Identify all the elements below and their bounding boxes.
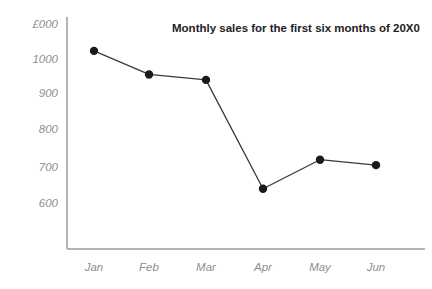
data-point-jan	[90, 47, 98, 55]
data-point-markers	[90, 47, 380, 193]
series-line-monthly-sales	[94, 51, 376, 189]
x-tick-label-apr: Apr	[253, 261, 273, 273]
y-tick-label-800: 800	[39, 123, 59, 135]
x-tick-label-may: May	[309, 261, 332, 273]
y-tick-label-600: 600	[39, 197, 59, 209]
data-point-feb	[145, 70, 153, 78]
y-tick-label-700: 700	[39, 161, 59, 173]
chart-canvas: £000 1000 900 800 700 600 Monthly sales …	[0, 0, 432, 289]
line-chart: £000 1000 900 800 700 600 Monthly sales …	[0, 0, 432, 289]
y-tick-label-1000: 1000	[32, 53, 58, 65]
x-tick-label-mar: Mar	[196, 261, 217, 273]
data-point-jun	[372, 161, 380, 169]
chart-title: Monthly sales for the first six months o…	[172, 22, 420, 34]
x-tick-label-jun: Jun	[366, 261, 386, 273]
data-point-may	[316, 156, 324, 164]
x-tick-label-jan: Jan	[84, 261, 104, 273]
y-tick-label-900: 900	[39, 87, 59, 99]
y-axis-unit-label: £000	[31, 18, 58, 30]
data-point-apr	[259, 185, 267, 193]
x-tick-label-feb: Feb	[139, 261, 159, 273]
data-point-mar	[202, 76, 210, 84]
